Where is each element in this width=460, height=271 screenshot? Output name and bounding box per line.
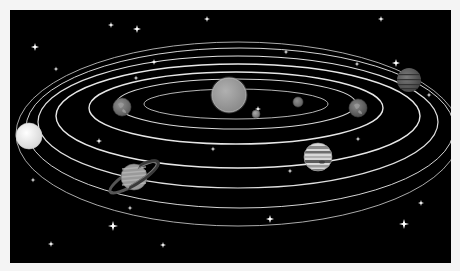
planet-mercury: [252, 110, 260, 118]
sun: [211, 77, 248, 114]
planet-neptune: [397, 68, 421, 92]
planet-mars: [349, 99, 367, 117]
solar-system-illustration: [0, 0, 460, 271]
planet-uranus: [16, 123, 42, 149]
planet-venus: [293, 97, 303, 107]
sun-icon: [212, 78, 246, 112]
planet-earth: [113, 98, 131, 116]
